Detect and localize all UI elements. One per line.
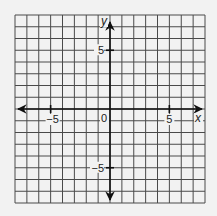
axis-labels: 5 −5 −5 5 0 y x	[46, 14, 203, 174]
x-tick-label-neg5: −5	[46, 113, 59, 125]
y-tick-label-neg5: −5	[91, 162, 104, 174]
x-tick-label-5: 5	[166, 113, 172, 125]
axes	[18, 22, 202, 200]
y-tick-label-5: 5	[98, 44, 104, 56]
coordinate-plane: 5 −5 −5 5 0 y x	[0, 0, 217, 216]
y-axis-label: y	[100, 14, 108, 28]
origin-label: 0	[101, 112, 107, 124]
x-axis-label: x	[194, 111, 202, 125]
